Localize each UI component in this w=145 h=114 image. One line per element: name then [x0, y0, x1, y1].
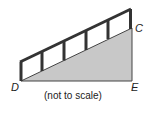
point-label-d: D	[11, 81, 19, 93]
caption: (not to scale)	[44, 90, 102, 101]
point-label-e: E	[131, 81, 138, 93]
point-label-c: C	[135, 22, 143, 34]
